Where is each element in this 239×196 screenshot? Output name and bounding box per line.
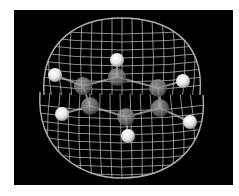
carbon-atoms [74,68,169,126]
hydrogen-atom [183,115,197,129]
carbon-atom [151,99,169,117]
carbon-atom [108,68,126,86]
benzene-orbital-render [0,0,239,196]
carbon-atom [149,79,167,97]
carbon-atom [117,108,135,126]
hydrogen-atom [55,107,69,121]
carbon-atom [81,97,99,115]
hydrogen-atom [48,68,62,82]
hydrogen-atom [176,74,190,88]
hydrogen-atom [110,53,124,67]
hydrogen-atom [121,129,135,143]
carbon-atom [74,77,92,95]
